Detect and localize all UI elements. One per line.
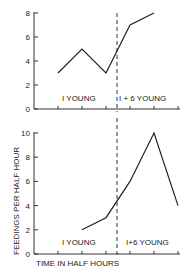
top-chart: 02468 I YOUNG I + 6 YOUNG (26, 9, 180, 114)
y-tick-label: 0 (26, 250, 31, 259)
bottom-left-annotation: I YOUNG (62, 238, 96, 247)
top-left-annotation: I YOUNG (62, 94, 96, 103)
bottom-right-annotation: I+6 YOUNG (126, 238, 169, 247)
y-tick-label: 4 (26, 202, 31, 211)
y-tick-label: 6 (26, 177, 31, 186)
bottom-y-ticks: 0246810 (21, 129, 38, 259)
y-tick-label: 2 (26, 226, 31, 235)
y-axis-label: FEEDINGS PER HALF HOUR (12, 147, 21, 255)
top-y-ticks: 02468 (26, 9, 38, 114)
top-data-line (58, 13, 154, 73)
y-tick-label: 6 (26, 33, 31, 42)
y-tick-label: 2 (26, 81, 31, 90)
y-tick-label: 8 (26, 9, 31, 18)
feeding-charts: 02468 I YOUNG I + 6 YOUNG 0246810 I YOUN… (0, 0, 188, 275)
bottom-data-line (82, 133, 178, 230)
y-tick-label: 0 (26, 105, 31, 114)
y-tick-label: 10 (21, 129, 30, 138)
bottom-chart: 0246810 I YOUNG I+6 YOUNG TIME IN HALF H… (21, 118, 180, 268)
y-tick-label: 4 (26, 57, 31, 66)
x-axis-label: TIME IN HALF HOURS (36, 259, 119, 268)
y-tick-label: 8 (26, 153, 31, 162)
top-right-annotation: I + 6 YOUNG (119, 94, 166, 103)
